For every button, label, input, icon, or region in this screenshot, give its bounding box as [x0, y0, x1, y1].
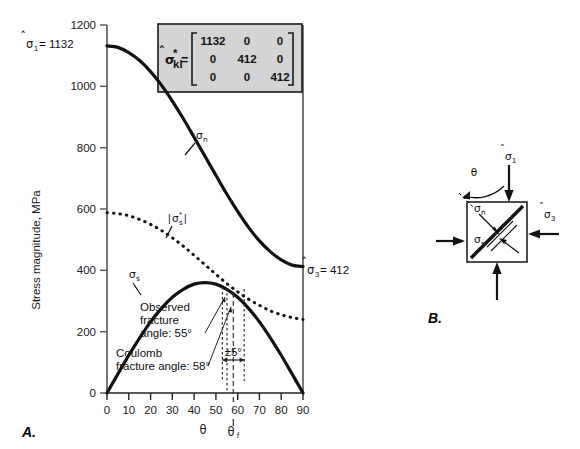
- figure-root: 0 200 400 600 800 1000 1200 Stress magni…: [0, 0, 580, 449]
- coulomb-line-1: Coulomb: [116, 347, 162, 359]
- panel-b-sigma-s-symbol: σ: [474, 233, 481, 245]
- panel-b-sigma1-hat: ̂: [500, 144, 505, 146]
- sigma-s-star-bar-close: |: [184, 212, 187, 224]
- curve-label-sigma-s: σ s: [129, 268, 141, 295]
- curve-sigma-s-star: [107, 213, 303, 320]
- matrix-cell-2-2: 412: [270, 71, 289, 83]
- sigma1-label-b: σ ̂ 1: [500, 144, 516, 165]
- coulomb-line-2: fracture angle: 58°: [116, 360, 210, 372]
- sigma-s-star-leader-line: [166, 226, 172, 238]
- figure-svg: 0 200 400 600 800 1000 1200 Stress magni…: [0, 0, 580, 449]
- sigma1-hat: ̂: [21, 30, 25, 33]
- matrix-cell-2-0: 0: [210, 71, 216, 83]
- observed-line-2: fracture: [140, 314, 179, 326]
- x-axis-title: θ: [199, 423, 206, 437]
- x-tick-label-50: 50: [210, 404, 223, 416]
- matrix-cell-1-0: 0: [210, 53, 216, 65]
- sigma3-symbol: σ: [307, 263, 314, 277]
- panel-b-sigma3-subscript: 3: [551, 214, 555, 223]
- x-tick-label-80: 80: [275, 404, 288, 416]
- observed-fracture-annotation: Observed fracture angle: 55°: [140, 297, 226, 339]
- x-tick-label-70: 70: [253, 404, 266, 416]
- y-tick-label-1000: 1000: [70, 80, 96, 92]
- matrix-cell-1-2: 0: [277, 53, 283, 65]
- sigma-n-label-subscript: n: [203, 135, 208, 144]
- panel-b-sigma-n-subscript: n: [481, 208, 486, 217]
- matrix-cell-0-2: 0: [277, 35, 283, 47]
- panel-a-label: A.: [21, 424, 36, 440]
- sigma3-subscript: 3: [315, 270, 319, 279]
- y-axis-ticks: [100, 25, 107, 393]
- y-tick-label-800: 800: [77, 142, 96, 154]
- sigma1-equals-value: = 1132: [39, 38, 74, 50]
- x-tick-label-90: 90: [297, 404, 310, 416]
- y-tick-label-200: 200: [77, 326, 96, 338]
- matrix-cell-1-1: 412: [237, 53, 256, 65]
- panel-b: σ ̂ 1 σ ̂ 3: [428, 144, 559, 326]
- x-tick-label-20: 20: [144, 404, 157, 416]
- sigma3-label-b: σ ̂ 3: [539, 202, 555, 223]
- y-tick-label-600: 600: [77, 203, 96, 215]
- panel-b-sigma1-symbol: σ: [505, 150, 512, 162]
- sigma1-symbol: σ: [26, 37, 33, 51]
- observed-line-3: angle: 55°: [140, 327, 192, 339]
- matrix-inset: σ ̂ kl * = 1132 0 0 0 412 0 0 0: [158, 24, 302, 92]
- matrix-cell-2-1: 0: [244, 71, 250, 83]
- x-tick-label-30: 30: [166, 404, 179, 416]
- sigma-n-label-symbol: σ: [196, 129, 203, 141]
- theta-f-subscript: f: [237, 431, 240, 440]
- sigma3-right-head: [528, 229, 540, 238]
- x-tick-label-60: 60: [231, 404, 244, 416]
- tolerance-bracket: ±5°: [222, 346, 244, 363]
- sigma3-equals-value: = 412: [320, 264, 349, 276]
- sigma3-arrow-right: [528, 229, 559, 238]
- matrix-lhs-star: *: [173, 47, 178, 59]
- y-axis-title: Stress magnitude, MPa: [30, 190, 42, 310]
- y-tick-label-1200: 1200: [70, 19, 96, 31]
- sigma-s-star-superscript: *: [179, 210, 182, 219]
- sigma3-left-head: [453, 236, 465, 245]
- theta-f-axis-label: θ f: [227, 419, 239, 440]
- y-tick-label-0: 0: [90, 387, 96, 399]
- sigma1-arrow-bottom: [492, 262, 501, 300]
- tolerance-arrow-right: [240, 357, 245, 362]
- sigma-n-leader-line: [185, 143, 195, 155]
- matrix-cell-0-1: 0: [244, 35, 250, 47]
- sigma1-bottom-head: [492, 262, 501, 274]
- curve-sigma-s: [107, 283, 303, 393]
- panel-b-sigma3-hat: ̂: [539, 202, 544, 204]
- sigma1-subscript: 1: [34, 44, 38, 53]
- sigma3-axis-annotation: σ ̂ 3 = 412: [302, 256, 349, 279]
- sigma1-axis-annotation: σ ̂ 1 = 1132: [21, 30, 74, 53]
- sigma1-arrow-head: [504, 190, 513, 202]
- sigma3-arrow-left: [436, 236, 465, 245]
- matrix-lhs-equals: =: [181, 53, 188, 67]
- matrix-cell-0-0: 1132: [201, 35, 226, 47]
- theta-angle-indicator: θ: [459, 166, 504, 207]
- sigma-s-star-subscript: s: [179, 218, 183, 227]
- sigma-s-label-symbol: σ: [129, 268, 136, 280]
- sigma-s-label-subscript: s: [136, 274, 140, 283]
- curve-label-sigma-s-star: | σ s * |: [166, 210, 187, 238]
- sigma-s-leader-line: [133, 283, 141, 295]
- panel-b-sigma-n-symbol: σ: [474, 202, 481, 214]
- sigma-s-star-symbol: σ: [172, 212, 179, 224]
- panel-b-sigma3-symbol: σ: [544, 208, 551, 220]
- y-tick-label-400: 400: [77, 264, 96, 276]
- panel-b-label: B.: [428, 310, 442, 326]
- panel-a: 0 200 400 600 800 1000 1200 Stress magni…: [21, 19, 349, 440]
- x-axis-ticks: [107, 393, 303, 400]
- panel-b-sigma-s-subscript: s: [481, 239, 485, 248]
- sigma-s-star-bar-open: |: [168, 212, 171, 224]
- sigma1-arrow: [504, 165, 513, 202]
- tolerance-label: ±5°: [225, 346, 242, 358]
- panel-b-sigma1-subscript: 1: [512, 156, 516, 165]
- tolerance-arrow-left: [222, 357, 227, 362]
- observed-line-1: Observed: [140, 301, 190, 313]
- x-tick-label-40: 40: [188, 404, 201, 416]
- x-tick-label-0: 0: [104, 404, 110, 416]
- theta-arc-arrowhead: [462, 191, 470, 200]
- x-tick-label-10: 10: [122, 404, 135, 416]
- theta-label-b: θ: [471, 166, 477, 178]
- theta-f-symbol: θ: [227, 425, 234, 439]
